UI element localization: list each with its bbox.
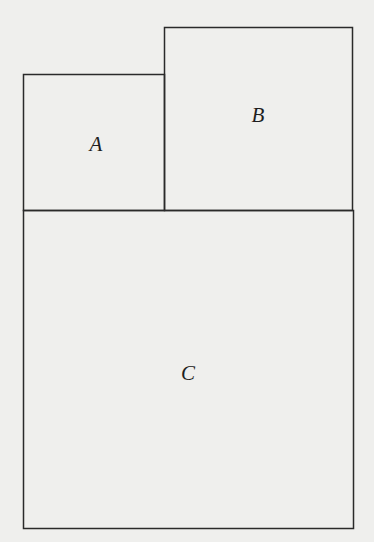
diagram-canvas	[0, 0, 374, 542]
region-b-label: B	[252, 105, 265, 126]
region-c-label: C	[181, 363, 195, 384]
region-a-label: A	[90, 134, 103, 155]
